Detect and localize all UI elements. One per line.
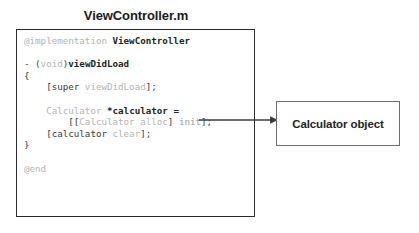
code-token: @end xyxy=(24,163,46,174)
diagram-root: ViewController.m @implementation ViewCon… xyxy=(0,0,419,233)
code-token: viewDidLoad xyxy=(85,81,146,92)
code-token: @implementation xyxy=(24,35,113,46)
line-blank-3 xyxy=(24,151,251,163)
code-token: } xyxy=(24,139,30,150)
line-calculator-clear: [calculator clear]; xyxy=(24,128,251,140)
code-token: [super xyxy=(24,81,85,92)
code-token: - ( xyxy=(24,58,41,69)
code-token: { xyxy=(24,70,30,81)
object-box: Calculator object xyxy=(276,101,400,146)
line-end: @end xyxy=(24,163,251,175)
line-implementation: @implementation ViewController xyxy=(24,35,251,47)
code-token: Calculator alloc xyxy=(79,116,168,127)
line-blank-1 xyxy=(24,47,251,59)
code-listing: @implementation ViewController - (void)v… xyxy=(24,35,251,174)
code-token: *calculator = xyxy=(107,105,179,116)
code-token: void xyxy=(41,58,63,69)
line-open-brace: { xyxy=(24,70,251,82)
line-close-brace: } xyxy=(24,139,251,151)
code-token xyxy=(24,105,46,116)
code-token: [[ xyxy=(24,116,79,127)
object-box-label: Calculator object xyxy=(292,118,384,130)
arrow-connector xyxy=(198,112,280,128)
code-token: ]; xyxy=(140,128,151,139)
code-token: clear xyxy=(113,128,141,139)
code-token: Calculator xyxy=(46,105,107,116)
line-blank-2 xyxy=(24,93,251,105)
line-method-signature: - (void)viewDidLoad xyxy=(24,58,251,70)
code-token: viewDidLoad xyxy=(68,58,129,69)
code-file-title: ViewController.m xyxy=(16,8,256,23)
code-token: [calculator xyxy=(24,128,113,139)
line-super-viewdidload: [super viewDidLoad]; xyxy=(24,81,251,93)
code-token: ViewController xyxy=(113,35,190,46)
code-token: ]; xyxy=(146,81,157,92)
arrow-right-icon xyxy=(198,112,280,128)
code-token: ] xyxy=(168,116,179,127)
